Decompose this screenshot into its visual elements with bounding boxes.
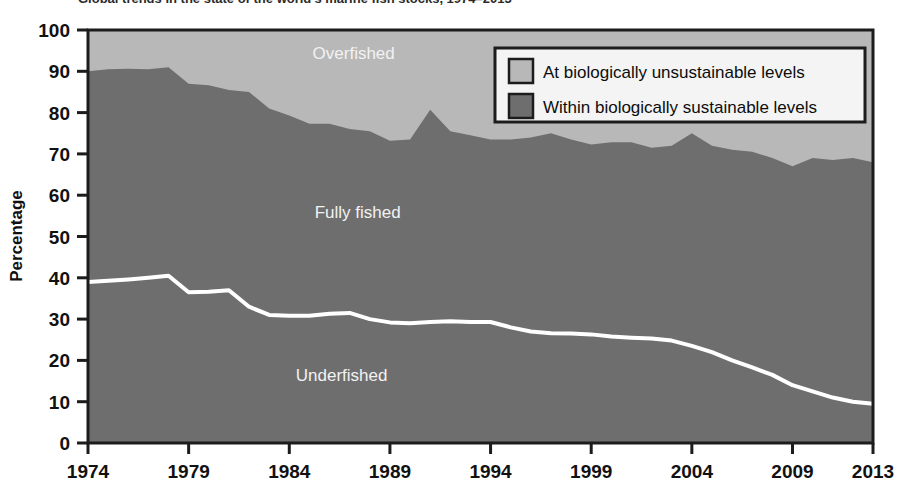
legend-swatch	[509, 94, 533, 118]
x-tick-label: 1974	[67, 461, 110, 482]
legend-item-label[interactable]: At biologically unsustainable levels	[543, 63, 805, 82]
y-axis-title-label: Percentage	[7, 190, 26, 282]
x-axis: 197419791984198919941999200420092013	[67, 443, 894, 482]
y-axis-title: Percentage	[7, 190, 26, 282]
x-tick-label: 1984	[268, 461, 311, 482]
y-tick-label: 10	[49, 392, 70, 413]
x-tick-label: 1999	[570, 461, 612, 482]
y-tick-label: 20	[49, 350, 70, 371]
figure-title: Global trends in the state of the world'…	[78, 0, 778, 7]
x-tick-label: 2009	[771, 461, 813, 482]
x-tick-label: 1989	[369, 461, 411, 482]
y-tick-label: 70	[49, 144, 70, 165]
legend-item-label[interactable]: Within biologically sustainable levels	[543, 98, 817, 117]
y-tick-label: 60	[49, 185, 70, 206]
y-tick-label: 40	[49, 268, 70, 289]
y-tick-label: 0	[59, 433, 70, 454]
band-label: Fully fished	[315, 203, 401, 222]
area-chart: 0102030405060708090100 19741979198419891…	[0, 0, 903, 490]
x-tick-label: 2013	[852, 461, 894, 482]
y-tick-label: 80	[49, 103, 70, 124]
y-axis: 0102030405060708090100	[38, 20, 88, 454]
y-tick-label: 90	[49, 61, 70, 82]
band-label: Overfished	[313, 44, 395, 63]
x-tick-label: 1994	[469, 461, 512, 482]
y-tick-label: 30	[49, 309, 70, 330]
y-tick-label: 100	[38, 20, 70, 41]
x-tick-label: 1979	[168, 461, 210, 482]
y-tick-label: 50	[49, 227, 70, 248]
legend-swatch	[509, 59, 533, 83]
x-tick-label: 2004	[671, 461, 714, 482]
chart-legend[interactable]: At biologically unsustainable levelsWith…	[495, 48, 865, 122]
band-label: Underfished	[296, 366, 388, 385]
